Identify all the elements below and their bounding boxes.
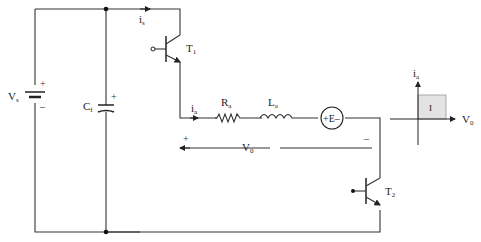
svg-text:+: + bbox=[183, 133, 189, 144]
junction-top bbox=[104, 7, 109, 12]
svg-text:Cf: Cf bbox=[83, 100, 93, 114]
output-voltage: V0 + – bbox=[180, 133, 372, 155]
svg-text:+: + bbox=[111, 91, 117, 102]
back-emf-source: +E– bbox=[321, 107, 343, 129]
quadrant-plot: I ia V0 bbox=[390, 67, 474, 145]
svg-text:V0: V0 bbox=[462, 113, 474, 127]
armature-inductor: La bbox=[260, 96, 318, 118]
armature-current-label: ia bbox=[191, 102, 198, 116]
svg-text:+: + bbox=[40, 78, 46, 89]
transistor-t2: T2 bbox=[351, 178, 396, 205]
svg-text:I: I bbox=[429, 103, 432, 113]
svg-text:V0: V0 bbox=[242, 141, 254, 155]
svg-text:La: La bbox=[268, 96, 279, 110]
svg-text:+E–: +E– bbox=[323, 113, 341, 124]
circuit-diagram: is + – Vs + Cf T1 ia Ra La +E– bbox=[0, 0, 481, 242]
svg-text:–: – bbox=[363, 133, 370, 144]
transistor-t1: T1 bbox=[151, 35, 197, 62]
dc-source: + – Vs bbox=[8, 78, 46, 112]
supply-current-label: is bbox=[139, 13, 145, 27]
svg-text:Vs: Vs bbox=[8, 90, 19, 104]
junction-bottom bbox=[104, 230, 109, 235]
svg-text:ia: ia bbox=[413, 67, 420, 81]
quadrant-i-area bbox=[418, 95, 446, 119]
armature-resistor: Ra bbox=[215, 96, 262, 122]
svg-text:Ra: Ra bbox=[221, 96, 232, 110]
filter-capacitor: + Cf bbox=[83, 91, 117, 114]
svg-text:–: – bbox=[39, 101, 46, 112]
svg-text:T2: T2 bbox=[385, 185, 396, 199]
svg-text:T1: T1 bbox=[186, 42, 197, 56]
